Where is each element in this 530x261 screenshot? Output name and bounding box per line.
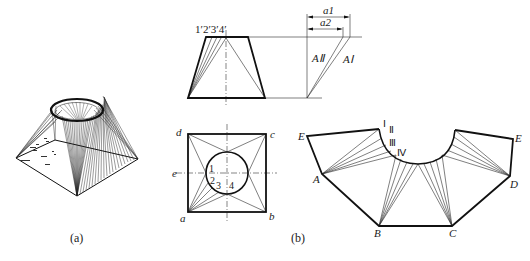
circle-point-2: 2 — [210, 175, 215, 186]
corner-label-b: b — [269, 210, 275, 222]
arc-point-IV: Ⅳ — [397, 147, 407, 158]
vertex-label-D: D — [509, 178, 518, 190]
development-pattern — [307, 129, 513, 226]
vertex-label-C: C — [449, 227, 457, 239]
true-length-AII-label: AⅡ — [311, 52, 326, 64]
side-label-e: e — [172, 167, 177, 179]
arc-point-I: Ⅰ — [383, 118, 386, 129]
caption-a: (a) — [70, 231, 83, 245]
corner-label-a: a — [180, 212, 186, 224]
dimension-a2: a2 — [320, 16, 332, 28]
arc-point-III: Ⅲ — [389, 137, 396, 148]
corner-label-c: c — [270, 128, 275, 140]
corner-label-d: d — [176, 126, 182, 138]
dimension-a1: a1 — [323, 4, 334, 16]
true-length-AI-label: AⅠ — [342, 53, 355, 65]
circle-point-3: 3 — [216, 180, 221, 191]
arc-point-II: Ⅱ — [389, 124, 394, 135]
front-view — [188, 30, 362, 105]
technical-diagram: (a) 1′2′3′4′ a1 a2 — [0, 0, 530, 261]
vertex-label-B: B — [374, 227, 381, 239]
circle-point-4: 4 — [229, 180, 234, 191]
caption-b: (b) — [291, 231, 305, 245]
front-view-point-labels: 1′2′3′4′ — [195, 23, 227, 35]
vertex-label-E-left: E — [297, 130, 305, 142]
vertex-label-A: A — [312, 173, 320, 185]
transition-piece-3d-view — [16, 96, 138, 196]
top-view — [176, 124, 277, 222]
vertex-label-E-right: E — [514, 132, 522, 144]
circle-point-1: 1 — [209, 163, 214, 174]
